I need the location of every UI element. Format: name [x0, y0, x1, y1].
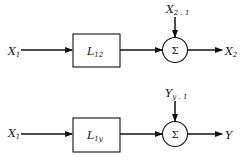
bottom-sum-symbol: Σ: [171, 129, 178, 140]
bottom-output-label: Y: [225, 129, 234, 142]
top-input-label: X1: [7, 45, 20, 59]
bottom-disturbance-label: Yy . 1: [165, 87, 187, 101]
block-diagram: X1 L12 Σ X2 . 1 X2 X1 L1y Σ Yy . 1 Y: [0, 0, 244, 160]
top-output-label: X2: [224, 45, 238, 59]
top-sum-symbol: Σ: [171, 45, 178, 56]
bottom-path: X1 L1y Σ Yy . 1 Y: [7, 87, 234, 152]
bottom-input-label: X1: [7, 127, 20, 141]
top-path: X1 L12 Σ X2 . 1 X2: [7, 3, 238, 67]
top-disturbance-label: X2 . 1: [165, 3, 189, 17]
